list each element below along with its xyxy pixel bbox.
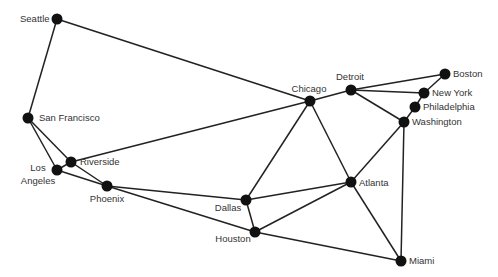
edge-chicago-atlanta (310, 101, 351, 182)
node-washington (399, 117, 410, 128)
label-sf: San Francisco (39, 112, 100, 123)
label-newyork: New York (432, 87, 472, 98)
label-phoenix: Phoenix (90, 193, 125, 204)
node-phoenix (102, 181, 113, 192)
node-houston (250, 227, 261, 238)
node-dallas (241, 195, 252, 206)
node-seattle (52, 14, 63, 25)
nodes (23, 14, 451, 267)
label-philadelphia: Philadelphia (423, 101, 475, 112)
label-boston: Boston (453, 68, 483, 79)
edge-riverside-chicago (71, 101, 310, 162)
edge-washington-atlanta (351, 122, 404, 182)
edge-detroit-washington (351, 90, 404, 122)
node-atlanta (346, 177, 357, 188)
edge-seattle-chicago (57, 19, 310, 101)
label-la-line2: Angeles (21, 175, 56, 186)
edge-atlanta-miami (351, 182, 401, 261)
label-la: Los (30, 162, 46, 173)
edges (28, 19, 445, 261)
label-dallas: Dallas (215, 202, 242, 213)
node-philadelphia (410, 102, 421, 113)
node-newyork (419, 88, 430, 99)
city-graph-diagram: SeattleSan FranciscoLosAngelesRiversideP… (0, 0, 498, 277)
label-detroit: Detroit (336, 71, 364, 82)
edge-seattle-sf (28, 19, 57, 118)
label-riverside: Riverside (80, 156, 120, 167)
edge-dallas-chicago (246, 101, 310, 200)
node-la (52, 165, 63, 176)
label-chicago: Chicago (292, 83, 327, 94)
label-seattle: Seattle (20, 13, 50, 24)
label-houston: Houston (215, 233, 250, 244)
edge-la-phoenix (57, 170, 107, 186)
node-riverside (66, 157, 77, 168)
edge-washington-miami (401, 122, 404, 261)
node-miami (396, 256, 407, 267)
edge-houston-miami (255, 232, 401, 261)
node-detroit (346, 85, 357, 96)
edge-detroit-newyork (351, 90, 424, 93)
label-miami: Miami (409, 255, 434, 266)
node-boston (440, 69, 451, 80)
node-chicago (305, 96, 316, 107)
label-washington: Washington (412, 116, 462, 127)
node-sf (23, 113, 34, 124)
label-atlanta: Atlanta (359, 177, 389, 188)
